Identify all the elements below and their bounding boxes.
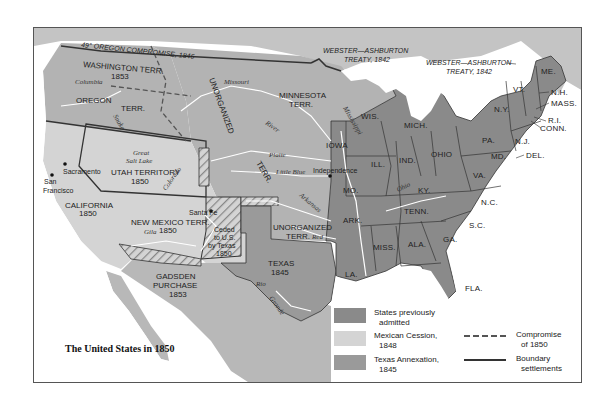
sacramento-marker bbox=[63, 162, 67, 166]
legend-label: Mexican Cession, bbox=[374, 331, 437, 341]
washington-terr-year: 1853 bbox=[111, 72, 129, 81]
state-label-fla: FLA. bbox=[465, 284, 483, 293]
san-francisco-marker bbox=[50, 173, 54, 177]
swatch-states-admitted bbox=[334, 308, 366, 323]
legend-label: Texas Annexation, bbox=[374, 355, 439, 365]
legend-label: 1848 bbox=[374, 341, 437, 351]
gadsden-label-2: PURCHASE bbox=[153, 281, 197, 290]
state-label-ind: IND. bbox=[399, 156, 416, 165]
utah-territory-year: 1850 bbox=[131, 177, 149, 186]
swatch-mexican-cession bbox=[334, 331, 366, 346]
ceded-label-1: Ceded bbox=[214, 226, 235, 233]
legend-mexican-cession: Mexican Cession, 1848 bbox=[334, 331, 437, 351]
state-label-mo: MO. bbox=[343, 186, 359, 195]
state-label-nh: N.H. bbox=[551, 88, 568, 97]
platte-river-label: Platte bbox=[268, 151, 286, 159]
state-label-conn: CONN. bbox=[540, 124, 567, 133]
state-label-ky: KY. bbox=[418, 186, 430, 195]
san-francisco-label-2: Francisco bbox=[43, 187, 73, 194]
state-label-ohio: OHIO bbox=[431, 150, 452, 159]
missouri-river-label: Missouri bbox=[223, 78, 249, 86]
new-mexico-terr-year: 1850 bbox=[159, 226, 177, 235]
legend-label: admitted bbox=[374, 318, 435, 328]
california-year: 1850 bbox=[79, 209, 97, 218]
great-salt-lake-label-1: Great bbox=[133, 149, 150, 157]
texas-year: 1845 bbox=[271, 268, 289, 277]
ceded-label-4: 1850 bbox=[216, 250, 232, 257]
gadsden-label-1: GADSDEN bbox=[156, 272, 196, 281]
unorganized-south-suffix: TERR. bbox=[286, 232, 310, 241]
legend-label: Boundary bbox=[516, 354, 562, 364]
legend-boundary-settlements: Boundary settlements bbox=[464, 354, 562, 374]
legend-compromise-1850: Compromise of 1850 bbox=[464, 330, 561, 350]
legend-label: of 1850 bbox=[516, 340, 561, 350]
state-label-ny: N.Y. bbox=[494, 105, 509, 114]
minnesota-terr-label: MINNESOTA bbox=[279, 91, 327, 100]
legend-label: 1845 bbox=[374, 365, 439, 375]
state-label-ala: ALA. bbox=[408, 240, 426, 249]
colorado-strip bbox=[199, 148, 209, 186]
state-label-va: VA. bbox=[473, 171, 486, 180]
gadsden-label-3: 1853 bbox=[169, 290, 187, 299]
state-label-wis: WIS. bbox=[361, 112, 379, 121]
map-title: The United States in 1850 bbox=[65, 343, 174, 354]
santa-fe-label: Santa Fe bbox=[189, 209, 218, 216]
webster-ashburton-east-label1: WEBSTER—ASHBURTON bbox=[426, 59, 512, 66]
state-label-iowa: IOWA bbox=[326, 141, 348, 150]
rio-grande-label-1: Rio bbox=[255, 280, 266, 288]
ceded-label-3: by Texas bbox=[208, 242, 236, 250]
sacramento-label: Sacramento bbox=[63, 168, 101, 175]
swatch-texas-annexation bbox=[334, 355, 366, 370]
texas-label: TEXAS bbox=[268, 259, 294, 268]
state-label-md: MD. bbox=[491, 152, 506, 161]
state-label-mass: MASS. bbox=[551, 99, 577, 108]
state-label-ga: GA. bbox=[443, 235, 457, 244]
state-label-ill: ILL. bbox=[371, 160, 385, 169]
red-river-label: Red bbox=[311, 233, 323, 241]
minnesota-terr-suffix: TERR. bbox=[289, 100, 313, 109]
swatch-boundary-line bbox=[464, 359, 506, 361]
independence-marker bbox=[328, 174, 332, 178]
state-label-del: DEL. bbox=[526, 151, 545, 160]
oregon-terr-label: OREGON bbox=[76, 96, 112, 105]
state-label-nj: N.J. bbox=[515, 137, 530, 146]
state-label-tenn: TENN. bbox=[404, 207, 429, 216]
webster-ashburton-west-label2: TREATY, 1842 bbox=[344, 56, 390, 63]
state-label-nc: N.C. bbox=[481, 198, 498, 207]
ceded-label-2: to U.S. bbox=[214, 234, 235, 241]
san-francisco-label-1: San bbox=[44, 178, 57, 185]
independence-label: Independence bbox=[313, 167, 357, 175]
state-label-sc: S.C. bbox=[469, 221, 485, 230]
gila-river-label: Gila bbox=[144, 228, 157, 236]
state-label-pa: PA. bbox=[482, 136, 495, 145]
webster-ashburton-east-label2: TREATY, 1842 bbox=[446, 68, 492, 75]
swatch-compromise-line bbox=[464, 335, 506, 337]
great-salt-lake-label-2: Salt Lake bbox=[126, 157, 152, 165]
columbia-river-label: Columbia bbox=[75, 78, 103, 86]
oregon-terr-suffix: TERR. bbox=[121, 104, 145, 113]
state-label-vt: VT. bbox=[513, 85, 525, 94]
legend-states-admitted: States previously admitted bbox=[334, 308, 435, 328]
little-blue-river-label: Little Blue bbox=[275, 168, 305, 176]
unorganized-south-label: UNORGANIZED bbox=[273, 223, 332, 232]
state-label-mich: MICH. bbox=[404, 121, 428, 130]
legend-label: settlements bbox=[516, 364, 562, 374]
state-label-ark: ARK. bbox=[343, 216, 362, 225]
state-label-la: LA. bbox=[345, 270, 358, 279]
legend-label: Compromise bbox=[516, 330, 561, 340]
state-label-miss: MISS. bbox=[373, 243, 396, 252]
legend-texas-annexation: Texas Annexation, 1845 bbox=[334, 355, 439, 375]
webster-ashburton-west-label1: WEBSTER—ASHBURTON bbox=[323, 47, 409, 54]
legend-label: States previously bbox=[374, 308, 435, 318]
state-label-me: ME. bbox=[541, 67, 556, 76]
map-frame: 49° OREGON COMPROMISE, 1846 WEBSTER—ASHB… bbox=[33, 27, 582, 383]
